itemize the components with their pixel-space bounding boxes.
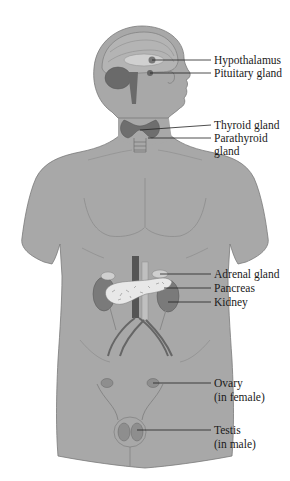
label-ovary: Ovary (214, 377, 243, 390)
label-thyroid-gland: Thyroid gland (214, 119, 279, 132)
label-hypothalamus: Hypothalamus (214, 54, 281, 67)
left-testis-shape (118, 423, 130, 441)
label-parathyroid-gland: gland (214, 145, 240, 158)
label-testis: Testis (214, 424, 241, 437)
cerebellum (105, 67, 131, 89)
label-parathyroid: Parathyroid (214, 132, 268, 145)
label-kidney: Kidney (214, 296, 248, 309)
label-adrenal-gland: Adrenal gland (214, 268, 279, 281)
label-testis-note: (in male) (214, 438, 256, 451)
label-pituitary-gland: Pituitary gland (214, 67, 282, 80)
label-pancreas: Pancreas (214, 282, 255, 295)
left-adrenal-shape (101, 272, 115, 280)
right-testis-shape (131, 423, 143, 441)
left-ovary-shape (101, 379, 113, 388)
label-ovary-note: (in female) (214, 391, 265, 404)
